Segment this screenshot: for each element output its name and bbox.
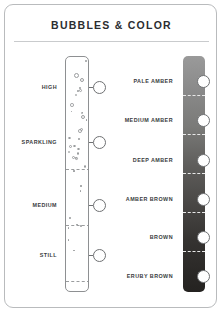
bubbles-band-separator [66, 169, 89, 170]
bubble [78, 129, 82, 133]
bubble [85, 60, 87, 62]
color-level-label: ERUBY BROWN [5, 273, 173, 279]
color-band-separator [183, 251, 205, 252]
bubbles-level-label: MEDIUM [5, 202, 57, 208]
bubble [73, 170, 75, 172]
bubble [75, 94, 77, 96]
header-divider [14, 41, 209, 42]
bubble [78, 138, 80, 140]
bubble [69, 145, 72, 148]
bubble [68, 151, 71, 154]
color-level-label: DEEP AMBER [5, 157, 173, 163]
bubble [68, 227, 70, 229]
bubble [79, 89, 82, 92]
bubbles-band-separator [66, 281, 89, 282]
color-level-label: PALE AMBER [5, 78, 173, 84]
bubbles-band-separator [66, 225, 89, 226]
bubbles-level-label: HIGH [5, 84, 57, 90]
bubbles-color-card: BUBBLES & COLOR HIGHSPARKLINGMEDIUMSTILL… [4, 4, 217, 308]
color-level-label: AMBER BROWN [5, 196, 173, 202]
color-band-separator [183, 95, 205, 96]
color-marker-knob[interactable] [197, 154, 210, 167]
color-marker-knob[interactable] [197, 114, 210, 127]
bubble [77, 152, 80, 155]
color-level-label: BROWN [5, 234, 173, 240]
bubble [84, 165, 87, 168]
bubble [71, 111, 72, 112]
color-marker-knob[interactable] [197, 75, 210, 88]
color-band-separator [183, 134, 205, 135]
bubble [80, 185, 82, 187]
bubble [73, 250, 74, 251]
color-marker-knob[interactable] [197, 270, 210, 283]
color-gradient-gauge [183, 56, 205, 292]
bubbles-marker-knob[interactable] [93, 249, 106, 262]
page-title: BUBBLES & COLOR [5, 19, 218, 31]
color-level-label: MEDIUM AMBER [5, 117, 173, 123]
bubble [68, 137, 70, 139]
color-band-separator [183, 173, 205, 174]
bubble [80, 190, 82, 192]
color-marker-knob[interactable] [197, 231, 210, 244]
color-band-separator [183, 212, 205, 213]
bubble [73, 145, 76, 148]
bubbles-gauge [65, 56, 89, 292]
bubble [74, 73, 79, 78]
bubble [70, 103, 74, 107]
bubble [69, 217, 71, 219]
bubbles-level-label: SPARKLING [5, 139, 57, 145]
bubbles-level-label: STILL [5, 252, 57, 258]
bubble [77, 148, 80, 151]
color-marker-knob[interactable] [197, 193, 210, 206]
bubbles-marker-knob[interactable] [93, 136, 106, 149]
